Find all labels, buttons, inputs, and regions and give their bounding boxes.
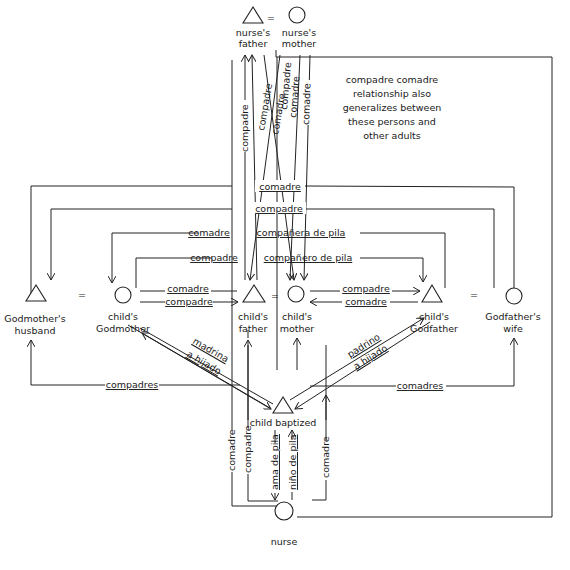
male-triangle-icon xyxy=(243,7,263,23)
svg-text:mother: mother xyxy=(280,323,315,334)
edge-line xyxy=(305,209,494,288)
female-circle-icon xyxy=(288,286,304,302)
svg-text:Godfather's: Godfather's xyxy=(485,311,540,322)
edge-label: comadre xyxy=(226,429,237,471)
svg-text:relationship also: relationship also xyxy=(353,88,431,99)
node-label: nurse's xyxy=(236,27,270,38)
svg-text:father: father xyxy=(239,323,268,334)
male-triangle-icon xyxy=(422,285,442,302)
edge-label: comadre xyxy=(188,227,230,238)
edge-label: compadre xyxy=(255,203,303,214)
node-nurses-father: nurse's father xyxy=(236,7,270,49)
female-circle-icon xyxy=(289,7,305,23)
svg-text:Godmother's: Godmother's xyxy=(4,313,65,324)
kinship-diagram: nurse's father = nurse's mother compadre… xyxy=(0,0,570,570)
male-triangle-icon xyxy=(243,285,265,302)
node-childs-mother: child's mother xyxy=(280,286,315,334)
svg-text:Godfather: Godfather xyxy=(410,323,458,334)
edge-label: compadres xyxy=(106,379,159,390)
edge-label: comadre xyxy=(167,283,209,294)
male-triangle-icon xyxy=(273,397,293,413)
node-childs-godmother: child's Godmother xyxy=(96,287,150,334)
edge-label: compañero de pila xyxy=(264,252,353,263)
node-label: nurse's xyxy=(282,27,316,38)
node-nurse: nurse xyxy=(271,502,298,547)
svg-text:child's: child's xyxy=(282,311,312,322)
edge-label: niño de pila xyxy=(287,434,298,490)
edge-label: comadre xyxy=(345,296,387,307)
svg-text:generalizes between: generalizes between xyxy=(343,102,442,113)
node-label: mother xyxy=(282,38,317,49)
marriage-sign: = xyxy=(267,12,275,23)
edge-label: compadre xyxy=(190,252,238,263)
edge-line xyxy=(305,186,514,298)
svg-text:compadre: compadre xyxy=(239,104,250,152)
female-circle-icon xyxy=(115,287,131,303)
note-text: compadre comadre relationship also gener… xyxy=(343,74,442,141)
svg-text:child's: child's xyxy=(419,311,449,322)
node-childs-godfather: child's Godfather xyxy=(410,285,458,334)
svg-text:other adults: other adults xyxy=(363,130,421,141)
node-label: father xyxy=(239,38,268,49)
node-godfathers-wife: Godfather's wife xyxy=(485,288,540,334)
svg-text:comadre: comadre xyxy=(287,76,302,119)
marriage-sign: = xyxy=(271,290,279,301)
edge-label: comadres xyxy=(397,380,444,391)
male-triangle-icon xyxy=(26,285,46,301)
edge-label: compañera de pila xyxy=(257,227,346,238)
node-childs-father: child's father xyxy=(238,285,268,334)
node-nurses-mother: nurse's mother xyxy=(282,7,317,49)
edge-label: compadre xyxy=(165,296,213,307)
top-vertical-labels: compadre compadre comadre compadre comad… xyxy=(239,62,312,152)
edge-line xyxy=(360,233,445,288)
svg-text:child baptized: child baptized xyxy=(250,417,317,428)
svg-text:compadre comadre: compadre comadre xyxy=(346,74,439,85)
edge-label: compadre xyxy=(342,283,390,294)
female-circle-icon xyxy=(275,502,293,520)
svg-text:nurse: nurse xyxy=(271,536,298,547)
edge-line xyxy=(360,258,423,282)
marriage-sign: = xyxy=(78,289,86,300)
marriage-sign: = xyxy=(470,289,478,300)
svg-text:comadre: comadre xyxy=(300,83,312,125)
svg-text:child's: child's xyxy=(238,311,268,322)
female-circle-icon xyxy=(506,288,522,304)
svg-text:husband: husband xyxy=(15,325,56,336)
svg-text:wife: wife xyxy=(503,323,523,334)
node-godmothers-husband: Godmother's husband xyxy=(4,285,65,336)
edge-label: compadre xyxy=(242,425,253,473)
svg-text:Godmother: Godmother xyxy=(96,323,150,334)
edge-label: comadre xyxy=(320,436,331,478)
edge-label: comadre xyxy=(259,181,301,192)
edge-label: ama de pila xyxy=(269,434,280,490)
edge-line xyxy=(51,209,232,280)
svg-text:these persons and: these persons and xyxy=(348,116,436,127)
svg-text:child's: child's xyxy=(108,311,138,322)
edge-line xyxy=(310,338,514,386)
